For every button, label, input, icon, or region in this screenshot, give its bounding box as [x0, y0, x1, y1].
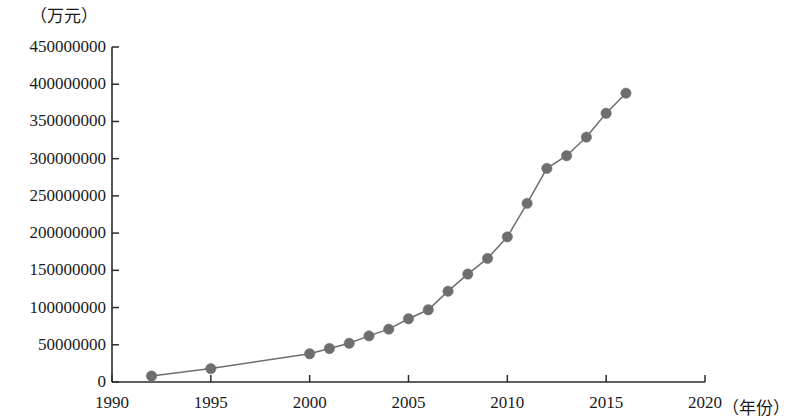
data-point — [423, 305, 433, 315]
data-point — [403, 314, 413, 324]
data-point — [324, 343, 334, 353]
data-point — [522, 198, 532, 208]
data-point — [621, 88, 631, 98]
data-point — [344, 338, 354, 348]
data-point — [146, 371, 156, 381]
axes — [112, 47, 705, 382]
data-point — [463, 269, 473, 279]
data-point — [443, 286, 453, 296]
data-point — [206, 363, 216, 373]
data-point — [601, 108, 611, 118]
data-point — [364, 331, 374, 341]
data-point — [502, 232, 512, 242]
data-point — [482, 253, 492, 263]
data-point — [561, 150, 571, 160]
data-point — [384, 324, 394, 334]
line-chart: （万元） （年份） 050000000100000000150000000200… — [0, 0, 806, 419]
data-point — [581, 132, 591, 142]
plot-area — [0, 0, 806, 419]
data-point — [304, 349, 314, 359]
data-point — [542, 163, 552, 173]
data-series — [146, 88, 631, 381]
